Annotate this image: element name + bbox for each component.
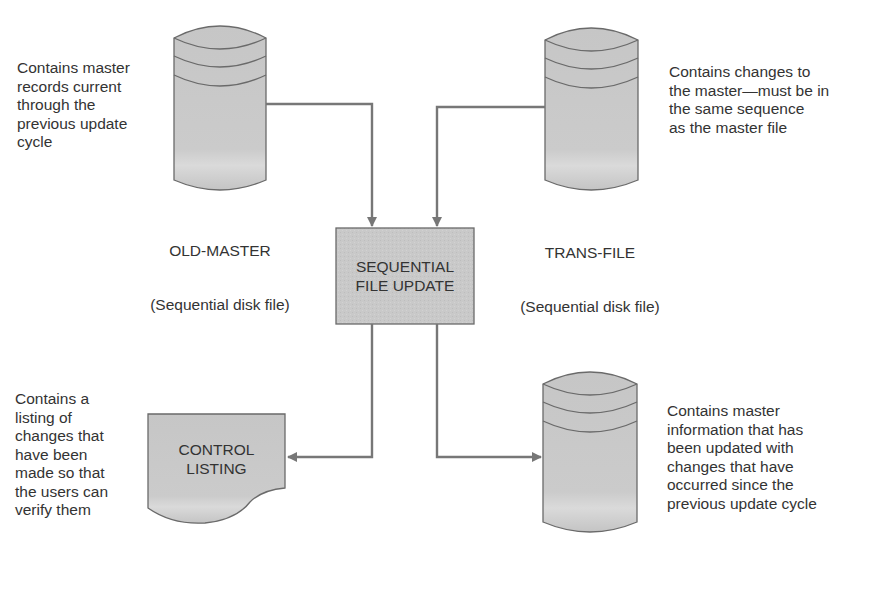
control-listing-label: CONTROL LISTING bbox=[148, 440, 285, 478]
trans-file-type: (Sequential disk file) bbox=[500, 298, 680, 316]
trans-file-cylinder bbox=[545, 28, 638, 190]
old-master-name: OLD-MASTER bbox=[130, 242, 310, 260]
old-master-label: OLD-MASTER (Sequential disk file) bbox=[130, 206, 310, 332]
new-master-label: NEW-MASTER (Sequential disk file) bbox=[500, 550, 680, 590]
trans-file-name: TRANS-FILE bbox=[500, 244, 680, 262]
new-master-cylinder bbox=[543, 372, 637, 532]
old-master-cylinder bbox=[174, 26, 266, 190]
new-master-name: NEW-MASTER bbox=[500, 586, 680, 590]
arrow-update-to-control-listing bbox=[288, 324, 372, 457]
control-listing-note: Contains a listing of changes that have … bbox=[15, 390, 108, 520]
old-master-type: (Sequential disk file) bbox=[130, 296, 310, 314]
trans-file-note: Contains changes to the master—must be i… bbox=[669, 63, 829, 137]
sequential-file-update-label: SEQUENTIAL FILE UPDATE bbox=[336, 257, 474, 295]
new-master-note: Contains master information that has bee… bbox=[667, 402, 817, 513]
old-master-note: Contains master records current through … bbox=[17, 59, 130, 152]
arrow-update-to-new-master bbox=[437, 324, 541, 457]
trans-file-label: TRANS-FILE (Sequential disk file) bbox=[500, 208, 680, 334]
